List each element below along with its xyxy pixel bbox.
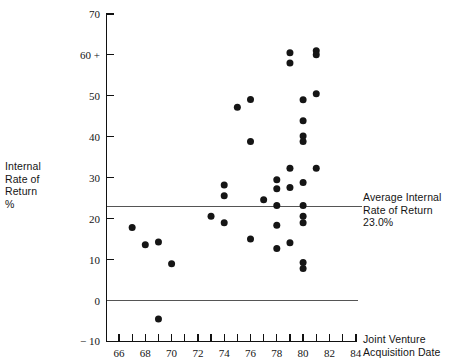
data-point <box>221 192 228 199</box>
data-point <box>313 165 320 172</box>
data-point <box>273 245 280 252</box>
x-tick-label: 80 <box>298 347 310 359</box>
axis-group <box>107 14 357 342</box>
data-point <box>313 51 320 58</box>
data-point <box>286 59 293 66</box>
data-point <box>129 224 136 231</box>
x-tick-label: 84 <box>350 347 362 359</box>
y-tick-label: 40 <box>89 131 101 143</box>
data-point <box>286 184 293 191</box>
x-tick-group <box>119 334 356 342</box>
data-point <box>286 239 293 246</box>
data-point <box>300 202 307 209</box>
y-tick-label: 20 <box>89 213 101 225</box>
data-point <box>300 96 307 103</box>
scatter-chart: − 100102030405060 +70 666870727476788082… <box>0 0 465 363</box>
data-point <box>247 138 254 145</box>
x-axis-title: Joint Venture Acquisition Date <box>363 333 463 358</box>
data-point <box>168 260 175 267</box>
data-point <box>221 219 228 226</box>
data-point <box>155 238 162 245</box>
x-tick-label-group: 66687072747678808284 <box>114 347 362 359</box>
y-tick-label: 50 <box>89 90 101 102</box>
data-point <box>247 236 254 243</box>
data-point <box>208 213 215 220</box>
data-point <box>300 213 307 220</box>
data-point <box>300 265 307 272</box>
y-tick-label: 10 <box>89 254 101 266</box>
data-point <box>273 222 280 229</box>
x-tick-label: 68 <box>140 347 152 359</box>
data-point <box>142 241 149 248</box>
data-point-group <box>129 47 320 322</box>
data-point <box>300 179 307 186</box>
data-point <box>273 202 280 209</box>
data-point <box>300 138 307 145</box>
x-axis <box>107 334 357 342</box>
data-point <box>300 219 307 226</box>
data-point <box>155 315 162 322</box>
x-tick-label: 78 <box>271 347 283 359</box>
y-tick-label: 30 <box>89 172 101 184</box>
x-tick-label: 66 <box>114 347 126 359</box>
data-point <box>300 259 307 266</box>
data-point <box>260 196 267 203</box>
x-tick-label: 74 <box>219 347 231 359</box>
data-point <box>286 165 293 172</box>
data-point <box>221 182 228 189</box>
y-tick-label: − 10 <box>80 335 100 347</box>
data-point <box>234 104 241 111</box>
reference-line-group <box>107 206 363 300</box>
average-return-annotation: Average Internal Rate of Return 23.0% <box>363 191 463 229</box>
y-axis-title: Internal Rate of Return % <box>5 160 75 210</box>
y-tick-label-group: − 100102030405060 +70 <box>80 8 100 348</box>
y-tick-label: 70 <box>89 8 101 20</box>
x-tick-label: 76 <box>245 347 257 359</box>
y-tick-label: 60 + <box>80 49 100 61</box>
y-tick-label: 0 <box>95 295 101 307</box>
x-tick-label: 70 <box>166 347 178 359</box>
x-tick-label: 72 <box>192 347 203 359</box>
data-point <box>286 49 293 56</box>
data-point <box>273 185 280 192</box>
data-point <box>300 117 307 124</box>
y-tick-group <box>107 14 115 342</box>
data-point <box>273 176 280 183</box>
data-point <box>247 96 254 103</box>
data-point <box>313 90 320 97</box>
x-tick-label: 82 <box>324 347 335 359</box>
